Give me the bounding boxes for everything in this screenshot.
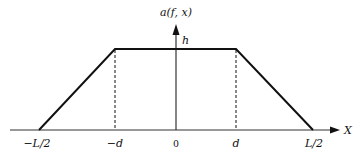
tick-label-zero: 0 [173, 137, 179, 149]
tick-label-neg-half-L: −L/2 [23, 137, 50, 150]
y-axis-label: a(f, x) [160, 6, 192, 19]
tick-label-neg-d: −d [107, 137, 123, 150]
y-axis-arrow-icon [173, 24, 180, 35]
plateau-label: h [182, 34, 189, 47]
x-axis-arrow-icon [330, 127, 340, 134]
x-axis-label: X [343, 124, 353, 137]
tick-label-d: d [232, 137, 239, 150]
trapezoid-diagram: a(f, x) X h −L/2 −d 0 d L/2 [0, 0, 359, 159]
tick-label-half-L: L/2 [304, 137, 323, 150]
